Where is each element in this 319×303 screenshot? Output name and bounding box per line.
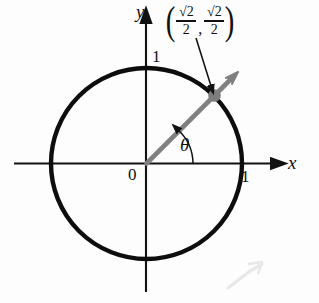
- y-coordinate-denominator: 2: [209, 22, 220, 38]
- scan-smudge-mark: [228, 262, 262, 288]
- y-coordinate-numerator: √2: [205, 5, 224, 21]
- open-paren: (: [166, 2, 176, 40]
- y-axis-tick-label-1: 1: [152, 48, 161, 65]
- x-coordinate-denominator: 2: [181, 22, 192, 38]
- unit-circle-figure: ( √2 2 , √2 2 ) x y 1 1 0 θ: [0, 0, 319, 303]
- point-marker-dot: [208, 89, 221, 102]
- theta-angle-label: θ: [180, 135, 189, 154]
- x-axis-label: x: [288, 153, 296, 172]
- y-axis-label: y: [136, 2, 144, 21]
- origin-label: 0: [128, 166, 137, 183]
- x-coordinate-numerator: √2: [177, 5, 196, 21]
- x-axis-tick-label-1: 1: [241, 168, 250, 185]
- y-coordinate-fraction: √2 2: [204, 5, 224, 38]
- x-coordinate-fraction: √2 2: [176, 5, 196, 38]
- coordinate-comma: ,: [198, 20, 202, 40]
- point-coordinate-label: ( √2 2 , √2 2 ): [166, 2, 235, 40]
- coordinate-leader-line: [196, 38, 211, 86]
- close-paren: ): [225, 2, 235, 40]
- figure-canvas: [0, 0, 319, 303]
